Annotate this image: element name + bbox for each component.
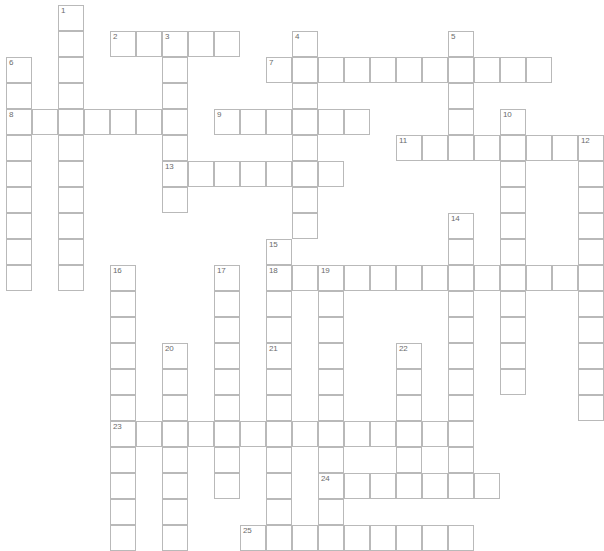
crossword-cell[interactable] [526, 57, 552, 83]
crossword-cell-numbered-5[interactable]: 5 [448, 31, 474, 57]
crossword-cell[interactable] [318, 525, 344, 551]
crossword-cell[interactable] [110, 109, 136, 135]
crossword-cell[interactable] [240, 109, 266, 135]
crossword-cell[interactable] [318, 317, 344, 343]
crossword-cell[interactable] [84, 109, 110, 135]
crossword-cell[interactable] [474, 265, 500, 291]
crossword-cell[interactable] [318, 343, 344, 369]
crossword-cell[interactable] [240, 421, 266, 447]
crossword-cell[interactable] [448, 473, 474, 499]
crossword-cell[interactable] [448, 421, 474, 447]
crossword-cell[interactable] [58, 213, 84, 239]
crossword-cell[interactable] [318, 395, 344, 421]
crossword-cell[interactable] [58, 161, 84, 187]
crossword-cell[interactable] [422, 473, 448, 499]
crossword-cell[interactable] [448, 265, 474, 291]
crossword-cell[interactable] [448, 239, 474, 265]
crossword-cell[interactable] [422, 57, 448, 83]
crossword-cell[interactable] [578, 317, 604, 343]
crossword-cell[interactable] [136, 109, 162, 135]
crossword-cell[interactable] [448, 317, 474, 343]
crossword-cell[interactable] [162, 135, 188, 161]
crossword-cell[interactable] [266, 447, 292, 473]
crossword-cell[interactable] [370, 265, 396, 291]
crossword-cell[interactable] [292, 265, 318, 291]
crossword-cell[interactable] [500, 291, 526, 317]
crossword-cell[interactable] [162, 447, 188, 473]
crossword-cell[interactable] [6, 161, 32, 187]
crossword-cell[interactable] [214, 421, 240, 447]
crossword-cell[interactable] [188, 421, 214, 447]
crossword-cell[interactable] [110, 317, 136, 343]
crossword-cell[interactable] [500, 161, 526, 187]
crossword-cell-numbered-20[interactable]: 20 [162, 343, 188, 369]
crossword-cell[interactable] [110, 447, 136, 473]
crossword-cell-numbered-19[interactable]: 19 [318, 265, 344, 291]
crossword-cell[interactable] [448, 447, 474, 473]
crossword-cell[interactable] [6, 213, 32, 239]
crossword-cell[interactable] [422, 421, 448, 447]
crossword-cell[interactable] [292, 525, 318, 551]
crossword-cell[interactable] [344, 473, 370, 499]
crossword-cell[interactable] [318, 499, 344, 525]
crossword-cell-numbered-24[interactable]: 24 [318, 473, 344, 499]
crossword-cell[interactable] [396, 473, 422, 499]
crossword-cell[interactable] [396, 395, 422, 421]
crossword-cell-numbered-7[interactable]: 7 [266, 57, 292, 83]
crossword-cell[interactable] [578, 239, 604, 265]
crossword-cell[interactable] [58, 83, 84, 109]
crossword-cell[interactable] [110, 499, 136, 525]
crossword-cell[interactable] [266, 395, 292, 421]
crossword-cell[interactable] [500, 369, 526, 395]
crossword-cell[interactable] [448, 343, 474, 369]
crossword-cell[interactable] [110, 473, 136, 499]
crossword-cell-numbered-4[interactable]: 4 [292, 31, 318, 57]
crossword-cell[interactable] [552, 135, 578, 161]
crossword-cell[interactable] [370, 473, 396, 499]
crossword-cell[interactable] [162, 109, 188, 135]
crossword-cell-numbered-9[interactable]: 9 [214, 109, 240, 135]
crossword-cell[interactable] [526, 265, 552, 291]
crossword-cell[interactable] [162, 369, 188, 395]
crossword-cell[interactable] [474, 473, 500, 499]
crossword-cell[interactable] [58, 265, 84, 291]
crossword-cell[interactable] [578, 187, 604, 213]
crossword-cell[interactable] [552, 265, 578, 291]
crossword-cell[interactable] [110, 395, 136, 421]
crossword-cell[interactable] [110, 343, 136, 369]
crossword-cell[interactable] [6, 83, 32, 109]
crossword-cell[interactable] [448, 525, 474, 551]
crossword-cell[interactable] [370, 525, 396, 551]
crossword-cell[interactable] [292, 421, 318, 447]
crossword-cell-numbered-3[interactable]: 3 [162, 31, 188, 57]
crossword-cell[interactable] [162, 499, 188, 525]
crossword-cell[interactable] [344, 421, 370, 447]
crossword-cell[interactable] [448, 57, 474, 83]
crossword-cell-numbered-18[interactable]: 18 [266, 265, 292, 291]
crossword-cell[interactable] [214, 161, 240, 187]
crossword-cell[interactable] [396, 525, 422, 551]
crossword-cell-numbered-17[interactable]: 17 [214, 265, 240, 291]
crossword-cell[interactable] [318, 447, 344, 473]
crossword-cell[interactable] [578, 369, 604, 395]
crossword-cell-numbered-6[interactable]: 6 [6, 57, 32, 83]
crossword-cell-numbered-23[interactable]: 23 [110, 421, 136, 447]
crossword-cell[interactable] [266, 317, 292, 343]
crossword-cell[interactable] [370, 57, 396, 83]
crossword-cell[interactable] [474, 135, 500, 161]
crossword-cell[interactable] [162, 525, 188, 551]
crossword-cell-numbered-8[interactable]: 8 [6, 109, 32, 135]
crossword-cell[interactable] [422, 265, 448, 291]
crossword-cell[interactable] [448, 395, 474, 421]
crossword-cell[interactable] [500, 317, 526, 343]
crossword-cell[interactable] [526, 135, 552, 161]
crossword-cell[interactable] [58, 135, 84, 161]
crossword-cell-numbered-16[interactable]: 16 [110, 265, 136, 291]
crossword-cell[interactable] [266, 291, 292, 317]
crossword-cell[interactable] [318, 57, 344, 83]
crossword-cell[interactable] [136, 421, 162, 447]
crossword-cell[interactable] [318, 369, 344, 395]
crossword-cell[interactable] [344, 109, 370, 135]
crossword-cell[interactable] [162, 83, 188, 109]
crossword-cell[interactable] [162, 395, 188, 421]
